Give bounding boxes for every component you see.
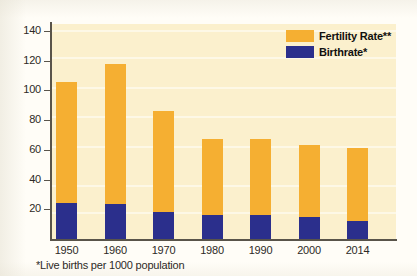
y-axis-tick <box>44 180 51 181</box>
y-axis-line <box>50 22 52 241</box>
y-axis-tick-label: 60 <box>1 143 41 155</box>
y-axis-tick-label: 80 <box>1 113 41 125</box>
x-axis-tick-label: 1970 <box>141 244 187 256</box>
bar-segment-birthrate <box>202 215 223 239</box>
bar-segment-fertility-rate <box>153 111 174 212</box>
legend-swatch <box>286 30 314 42</box>
bar-group <box>153 111 174 239</box>
y-axis-tick <box>44 90 51 91</box>
bar-segment-birthrate <box>105 204 126 239</box>
bar-segment-birthrate <box>250 215 271 239</box>
legend-item: Birthrate* <box>286 45 391 58</box>
y-axis-tick <box>44 61 51 62</box>
legend-label: Fertility Rate** <box>319 30 391 42</box>
chart-legend: Fertility Rate**Birthrate* <box>286 29 391 58</box>
bar-group <box>56 82 77 239</box>
bar-segment-fertility-rate <box>299 145 320 216</box>
legend-item: Fertility Rate** <box>286 29 391 42</box>
y-axis-tick-label: 100 <box>1 83 41 95</box>
bar-segment-birthrate <box>347 221 368 239</box>
legend-label: Birthrate* <box>319 46 367 58</box>
bar-segment-fertility-rate <box>105 64 126 204</box>
y-axis-tick-label: 20 <box>1 202 41 214</box>
bar-segment-fertility-rate <box>202 139 223 215</box>
bar-group <box>299 145 320 239</box>
y-axis-tick <box>44 120 51 121</box>
bar-segment-fertility-rate <box>56 82 77 203</box>
x-axis-tick-label: 2014 <box>335 244 381 256</box>
chart-footnote: *Live births per 1000 population <box>36 259 184 271</box>
x-axis-tick-label: 1950 <box>44 244 90 256</box>
x-axis-tick-label: 1960 <box>92 244 138 256</box>
x-axis-tick-label: 1990 <box>238 244 284 256</box>
bar-group <box>347 148 368 239</box>
y-axis-tick <box>44 209 51 210</box>
bar-segment-birthrate <box>153 212 174 239</box>
y-axis-tick-label: 40 <box>1 173 41 185</box>
y-axis-tick-label: 120 <box>1 54 41 66</box>
y-axis-tick <box>44 31 51 32</box>
bar-segment-fertility-rate <box>347 148 368 221</box>
x-axis-tick-label: 2000 <box>286 244 332 256</box>
bar-group <box>250 139 271 239</box>
y-axis-tick <box>44 150 51 151</box>
bar-group <box>105 64 126 239</box>
x-axis-tick-label: 1980 <box>189 244 235 256</box>
bar-segment-birthrate <box>56 203 77 239</box>
x-axis-line <box>50 239 397 241</box>
y-axis-tick-labels: 20406080100120140 <box>0 0 41 276</box>
y-axis-tick-label: 140 <box>1 24 41 36</box>
bar-segment-fertility-rate <box>250 139 271 215</box>
bar-segment-birthrate <box>299 217 320 239</box>
legend-swatch <box>286 46 314 58</box>
bar-group <box>202 139 223 239</box>
